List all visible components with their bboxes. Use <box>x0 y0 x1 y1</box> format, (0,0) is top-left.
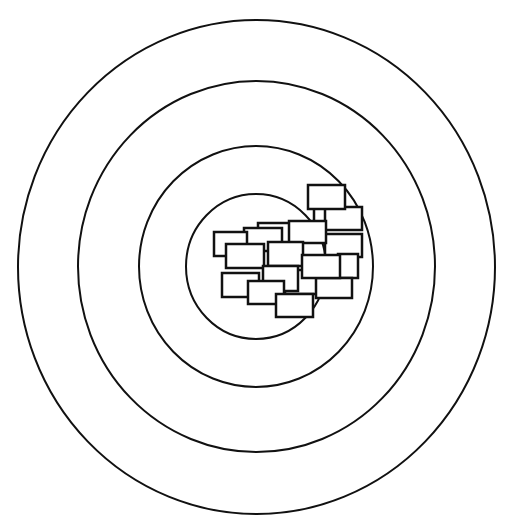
rectangle-14 <box>302 255 340 278</box>
target-diagram <box>0 0 508 524</box>
rectangle-9 <box>308 185 345 209</box>
rectangle-10 <box>289 221 326 243</box>
rectangle-18 <box>276 294 313 317</box>
rectangle-13 <box>316 278 352 298</box>
rectangle-cluster <box>214 185 362 317</box>
rectangle-4 <box>226 244 264 268</box>
target-diagram-svg <box>0 0 508 524</box>
rectangle-8 <box>325 207 362 230</box>
rectangle-11 <box>268 242 303 266</box>
